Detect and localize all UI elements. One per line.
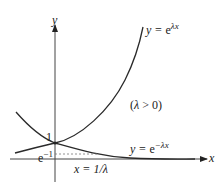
x-marker-label: x = 1/λ bbox=[74, 163, 108, 175]
condition-label: (λ > 0) bbox=[130, 99, 162, 111]
exponential-diagram bbox=[0, 0, 220, 186]
intercept-point bbox=[53, 141, 56, 144]
growth-curve-label: y = eλx bbox=[146, 22, 179, 36]
e-inverse-label: e−1 bbox=[38, 150, 53, 164]
x-axis-label: x bbox=[209, 152, 214, 164]
growth-curve bbox=[16, 27, 143, 143]
intercept-label: 1 bbox=[46, 131, 52, 143]
decay-curve-label: y = e−λx bbox=[130, 141, 169, 155]
y-axis-label: y bbox=[52, 14, 57, 26]
